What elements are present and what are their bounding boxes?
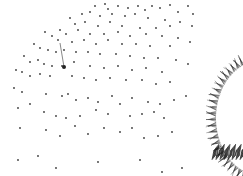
dot — [97, 161, 99, 163]
dot — [51, 35, 53, 37]
dot — [187, 5, 189, 7]
dot — [65, 117, 67, 119]
dot — [71, 75, 73, 77]
dot — [131, 69, 133, 71]
dot — [55, 167, 57, 169]
dot — [159, 7, 161, 9]
dot — [121, 25, 123, 27]
dot — [155, 27, 157, 29]
dot — [97, 25, 99, 27]
dot — [77, 29, 79, 31]
dot — [107, 8, 109, 10]
dot — [169, 45, 171, 47]
dot — [161, 35, 163, 37]
dot — [117, 5, 119, 7]
dot — [124, 15, 126, 17]
highlighted-particle — [62, 65, 66, 69]
dot — [161, 71, 163, 73]
dot — [169, 25, 171, 27]
dot — [107, 39, 109, 41]
dot — [143, 137, 145, 139]
dot — [71, 41, 73, 43]
dot — [134, 13, 136, 15]
dot — [179, 21, 181, 23]
dot — [33, 43, 35, 45]
dot — [185, 95, 187, 97]
dot — [57, 39, 59, 41]
dot — [13, 87, 15, 89]
dot — [129, 55, 131, 57]
dot — [147, 101, 149, 103]
dot — [157, 57, 159, 59]
dot — [21, 71, 23, 73]
dot — [55, 51, 57, 53]
dot — [29, 61, 31, 63]
dot — [43, 63, 45, 65]
dot — [103, 33, 105, 35]
dot — [95, 109, 97, 111]
dot — [115, 53, 117, 55]
dot — [151, 5, 153, 7]
dot — [81, 13, 83, 15]
dot — [59, 135, 61, 137]
dot — [117, 65, 119, 67]
dot — [117, 31, 119, 33]
dot — [169, 81, 171, 83]
dot — [177, 37, 179, 39]
dot — [17, 107, 19, 109]
dot — [192, 13, 194, 15]
dot — [175, 59, 177, 61]
dot — [125, 79, 127, 81]
dot — [131, 97, 133, 99]
dot — [29, 75, 31, 77]
dot — [191, 25, 193, 27]
dot — [161, 171, 163, 173]
dot — [164, 19, 166, 21]
dot — [127, 7, 129, 9]
dot — [29, 103, 31, 105]
dot — [39, 47, 41, 49]
dot — [69, 17, 71, 19]
dot — [89, 11, 91, 13]
dot — [147, 17, 149, 19]
dot — [187, 63, 189, 65]
dot — [59, 29, 61, 31]
dot — [49, 75, 51, 77]
dot — [119, 131, 121, 133]
dot — [45, 129, 47, 131]
dot — [37, 59, 39, 61]
dot — [177, 11, 179, 13]
dot — [109, 77, 111, 79]
dot — [103, 67, 105, 69]
dot — [83, 39, 85, 41]
dot — [155, 83, 157, 85]
dot — [97, 101, 99, 103]
particle-scene — [0, 0, 243, 176]
dot — [17, 159, 19, 161]
dot — [121, 43, 123, 45]
dot — [79, 115, 81, 117]
dot — [129, 35, 131, 37]
dot — [169, 4, 171, 6]
dot — [99, 53, 101, 55]
dot — [107, 113, 109, 115]
dot — [44, 31, 46, 33]
dot — [19, 127, 21, 129]
dot — [87, 97, 89, 99]
dot — [89, 33, 91, 35]
dot — [141, 113, 143, 115]
dot — [45, 93, 47, 95]
dot — [104, 3, 106, 5]
dot — [157, 135, 159, 137]
dot — [99, 15, 101, 17]
dot — [89, 65, 91, 67]
dot — [109, 21, 111, 23]
dot — [65, 33, 67, 35]
dot — [171, 131, 173, 133]
dot — [84, 21, 86, 23]
dot — [51, 65, 53, 67]
dot — [135, 43, 137, 45]
dot — [189, 41, 191, 43]
dot — [55, 115, 57, 117]
dot — [63, 49, 65, 51]
